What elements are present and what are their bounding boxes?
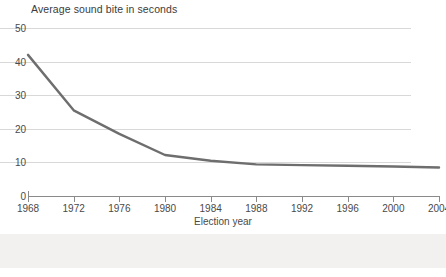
x-tick-label-1972: 1972 [63,203,85,214]
x-tick-label-1996: 1996 [337,203,359,214]
x-tick-label-2004: 2004 [428,203,446,214]
x-tick-label-1980: 1980 [154,203,176,214]
series-layer [0,0,446,230]
x-axis-title: Election year [0,216,446,227]
x-tick-label-2000: 2000 [382,203,404,214]
x-tick-1976 [119,196,120,202]
caption-band: FIGURE10-2 The Shrinking Sound Bite of T… [0,234,446,268]
x-tick-1996 [348,196,349,202]
x-tick-1984 [211,196,212,202]
x-tick-label-1988: 1988 [245,203,267,214]
x-tick-2000 [393,196,394,202]
series-line-sound-bite [28,55,439,168]
x-tick-1972 [74,196,75,202]
x-tick-label-1976: 1976 [108,203,130,214]
figure-container: Average sound bite in seconds 50 40 30 2… [0,0,446,277]
x-tick-1988 [256,196,257,202]
x-tick-2004 [439,196,440,202]
x-tick-1992 [302,196,303,202]
x-tick-label-1984: 1984 [200,203,222,214]
x-tick-1968 [28,196,29,202]
x-tick-1980 [165,196,166,202]
x-tick-label-1968: 1968 [17,203,39,214]
x-tick-label-1992: 1992 [291,203,313,214]
